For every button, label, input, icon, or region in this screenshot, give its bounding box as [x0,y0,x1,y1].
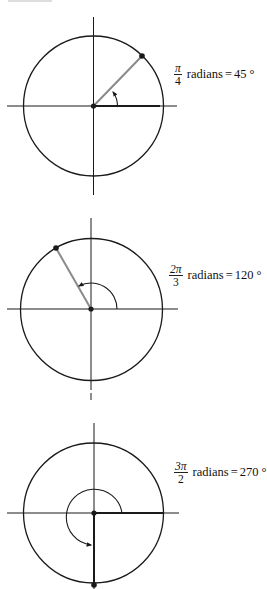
degree-value: 270 ° [240,465,267,480]
label-120-degrees: 2π 3 radians = 120 ° [169,263,262,288]
origin-dot [91,103,96,108]
terminal-side [94,56,143,106]
fraction-denominator: 3 [172,276,180,288]
point-on-circle [53,245,59,251]
figure-270-degrees [7,393,179,589]
figure-120-degrees [7,218,178,390]
point-on-circle [139,53,145,59]
fraction-denominator: 4 [174,75,182,87]
fraction-numerator: 2π [169,263,183,276]
equals-sign: = [225,67,232,82]
fraction: 3π 2 [174,460,188,485]
terminal-side [56,248,91,309]
fraction-numerator: 3π [174,460,188,473]
equals-sign: = [226,268,233,283]
figure-45-degrees [7,17,177,195]
label-270-degrees: 3π 2 radians = 270 ° [174,460,267,485]
fraction-numerator: π [174,62,182,75]
label-45-degrees: π 4 radians = 45 ° [174,62,255,87]
unit-text: radians [193,465,229,480]
angle-arc-arrow [113,92,118,106]
degree-value: 45 ° [234,67,255,82]
origin-dot [91,510,96,515]
fraction: π 4 [174,62,182,87]
equals-sign: = [231,465,238,480]
point-on-circle [91,582,97,588]
unit-text: radians [187,67,223,82]
degree-value: 120 ° [235,268,262,283]
unit-text: radians [188,268,224,283]
fraction-denominator: 2 [177,473,185,485]
fraction: 2π 3 [169,263,183,288]
unit-circle-diagrams [0,0,267,589]
origin-dot [88,306,93,311]
